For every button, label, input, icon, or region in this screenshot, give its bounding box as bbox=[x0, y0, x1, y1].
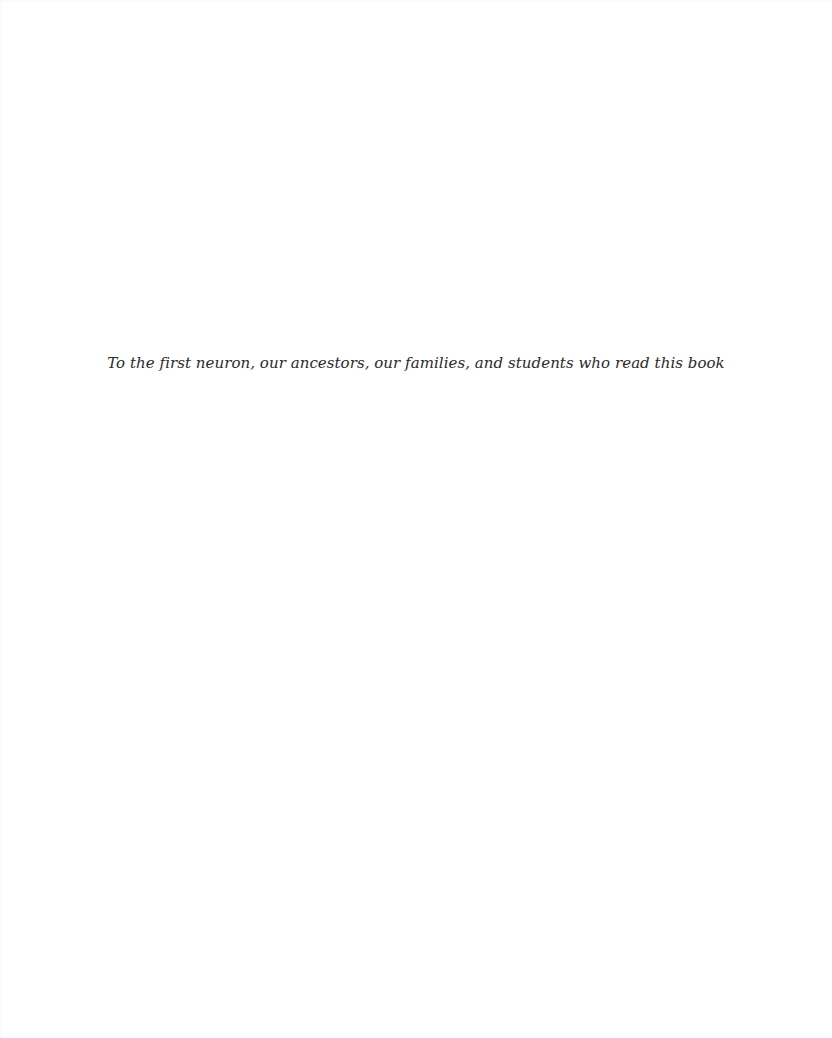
book-page: To the first neuron, our ancestors, our … bbox=[0, 0, 832, 1038]
dedication-text: To the first neuron, our ancestors, our … bbox=[0, 353, 832, 373]
